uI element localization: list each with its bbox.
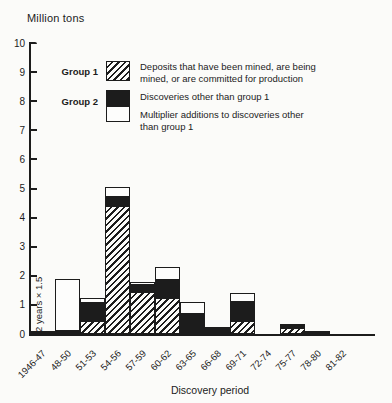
y-tick-label: 3: [7, 241, 25, 252]
bar-segment-white: [130, 282, 155, 285]
y-axis-title: Million tons: [27, 12, 84, 24]
x-tick-label: 81-82: [264, 341, 344, 353]
bar-segment-black: [305, 331, 330, 334]
legend-entry-multiplier: Multiplier additions to discoveries othe…: [140, 109, 385, 133]
bar-segment-white: [280, 324, 305, 326]
y-tick-mark: [31, 129, 37, 131]
legend-group1-label: Group 1: [52, 66, 98, 77]
legend-swatch-white: [106, 106, 130, 122]
bar-segment-white: [80, 298, 105, 304]
y-tick-mark: [31, 188, 37, 190]
bar-segment-hatched: [155, 298, 180, 334]
bar-segment-hatched: [280, 328, 305, 334]
bar-segment-black: [180, 314, 205, 334]
legend-swatch-hatched: [106, 61, 130, 81]
bar-segment-hatched: [230, 321, 255, 334]
x-axis-line: [29, 334, 375, 336]
x-tick-label-text: 81-82: [323, 348, 348, 373]
bar-segment-black: [155, 280, 180, 297]
bar-segment-black: [105, 197, 130, 206]
y-tick-mark: [31, 217, 37, 219]
bar-segment-hatched: [105, 206, 130, 334]
bar-segment-black: [80, 303, 105, 320]
bar-annotation: 2 years × 1.5: [33, 277, 44, 332]
bar-segment-black: [130, 285, 155, 292]
legend-entry-discoveries: Discoveries other than group 1: [140, 91, 385, 103]
legend-entry-group1: Deposits that have been mined, are being…: [140, 61, 385, 85]
y-tick-mark: [31, 100, 37, 102]
bar-segment-hatched: [80, 321, 105, 334]
bar-segment-white: [155, 267, 180, 280]
bar-segment-black: [55, 331, 80, 334]
bar-segment-black: [230, 302, 255, 321]
y-tick-label: 7: [7, 125, 25, 136]
bar-segment-white: [230, 293, 255, 302]
y-tick-label: 0: [7, 329, 25, 340]
y-tick-label: 8: [7, 96, 25, 107]
bar-segment-hatched: [130, 292, 155, 334]
y-axis-hook: [29, 42, 37, 44]
y-tick-label: 9: [7, 67, 25, 78]
y-tick-label: 10: [7, 38, 25, 49]
y-tick-label: 4: [7, 212, 25, 223]
y-tick-label: 1: [7, 299, 25, 310]
y-tick-label: 2: [7, 270, 25, 281]
bar-segment-black: [205, 327, 230, 334]
chart-page: Million tons Group 1 Group 2 Deposits th…: [0, 0, 392, 403]
x-axis-title: Discovery period: [120, 384, 300, 396]
y-tick-label: 6: [7, 154, 25, 165]
y-tick-mark: [31, 158, 37, 160]
bar-segment-white: [105, 187, 130, 197]
legend-swatch-black: [106, 90, 130, 106]
bar-segment-white: [180, 302, 205, 314]
y-tick-label: 5: [7, 183, 25, 194]
legend-group2-label: Group 2: [52, 96, 98, 107]
y-tick-mark: [31, 71, 37, 73]
y-tick-mark: [31, 246, 37, 248]
bar-segment-white: [55, 279, 80, 331]
